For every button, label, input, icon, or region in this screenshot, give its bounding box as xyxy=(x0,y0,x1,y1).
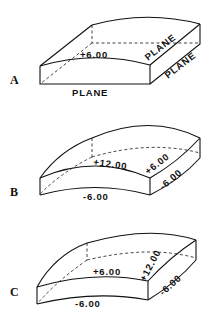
front-power-label: -6.00 xyxy=(83,191,109,202)
right-top-power-label: +12.00 xyxy=(137,248,163,283)
top-back-edge xyxy=(87,233,196,243)
panel-c: +6.00 +12.00 -6.00 -6.00 C xyxy=(10,233,196,309)
panel-label: B xyxy=(10,185,18,199)
panel-a: +6.00 PLANE PLANE PLANE A xyxy=(10,17,200,98)
top-back-edge xyxy=(92,17,200,25)
top-front-edge xyxy=(40,166,150,178)
right-side-power-label: PLANE xyxy=(162,50,197,81)
top-power-label: +6.00 xyxy=(93,266,121,277)
top-back-edge xyxy=(92,126,200,139)
front-power-label: PLANE xyxy=(72,87,108,98)
hidden-edge xyxy=(40,157,92,194)
hidden-edge xyxy=(92,147,200,157)
panel-label: A xyxy=(10,73,19,87)
top-power-label: +12.00 xyxy=(93,156,128,172)
front-power-label: -6.00 xyxy=(75,298,101,309)
lens-surface-diagram: +6.00 PLANE PLANE PLANE A +12.00 +6.00 -… xyxy=(0,0,221,319)
top-power-label: +6.00 xyxy=(80,49,108,60)
top-front-edge xyxy=(37,277,148,287)
hidden-edge xyxy=(87,252,196,260)
right-side-power-label: -6.00 xyxy=(157,272,183,297)
panel-label: C xyxy=(10,285,19,299)
hidden-edge xyxy=(92,25,200,43)
right-top-power-label: +6.00 xyxy=(142,151,171,177)
panel-b: +12.00 +6.00 -6.00 -6.00 B xyxy=(10,126,200,203)
right-side-power-label: -6.00 xyxy=(157,167,184,192)
front-face xyxy=(40,65,150,84)
